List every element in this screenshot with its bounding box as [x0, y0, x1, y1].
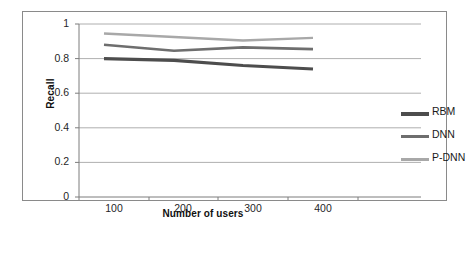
legend-item-rbm: RBM: [401, 105, 470, 128]
series-line-dnn: [104, 45, 313, 51]
legend-label-rbm: RBM: [432, 105, 455, 117]
series-line-p-dnn: [104, 34, 313, 41]
legend-label-p-dnn: P-DNN: [432, 151, 465, 163]
y-tick-label-0: 0: [33, 190, 69, 202]
x-axis-title: Number of users: [78, 208, 328, 219]
legend-label-dnn: DNN: [432, 128, 455, 140]
legend-swatch-p-dnn: [401, 158, 429, 161]
legend-swatch-dnn: [401, 135, 429, 138]
chart-canvas: [23, 12, 446, 200]
y-tick-marks: [75, 24, 79, 197]
y-axis-title: Recall: [45, 64, 56, 124]
chart-legend: RBM DNN P-DNN: [401, 105, 470, 174]
legend-swatch-rbm: [401, 112, 429, 116]
y-tick-label-0.8: 0.8: [33, 52, 69, 64]
series-line-rbm: [104, 59, 313, 69]
y-tick-label-0.2: 0.2: [33, 155, 69, 167]
gridlines: [79, 24, 421, 162]
y-tick-label-1: 1: [33, 17, 69, 29]
chart-plot-frame: 1 0.8 0.6 0.4 0.2 0 100 200 300 400 RBM …: [22, 11, 447, 201]
legend-item-p-dnn: P-DNN: [401, 151, 470, 174]
series-lines: [104, 34, 313, 69]
legend-item-dnn: DNN: [401, 128, 470, 151]
